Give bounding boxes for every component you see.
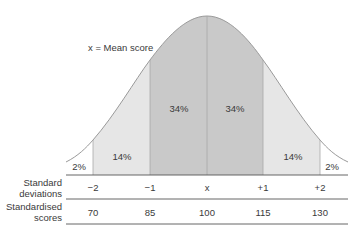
score-cell: 100 xyxy=(199,207,215,218)
percent-right-center: 34% xyxy=(225,103,244,114)
score-cell: 85 xyxy=(145,207,156,218)
score-cell: 115 xyxy=(255,207,270,218)
row-label-line: scores xyxy=(0,212,62,223)
percent-right-inner: 14% xyxy=(283,151,302,162)
row-label-standard-deviations: Standard deviations xyxy=(0,177,62,199)
row-label-line: Standardised xyxy=(0,201,62,212)
row-label-line: Standard xyxy=(0,177,62,188)
row-label-line: deviations xyxy=(0,188,62,199)
sd-cell: −1 xyxy=(145,182,156,193)
score-cell: 70 xyxy=(88,207,99,218)
percent-right-outer: 2% xyxy=(325,161,339,172)
score-cell: 130 xyxy=(312,207,328,218)
row-label-standardised-scores: Standardised scores xyxy=(0,201,62,223)
sd-cell: −2 xyxy=(88,182,99,193)
sd-cell: +1 xyxy=(258,182,269,193)
mean-legend-note: x = Mean score xyxy=(88,42,153,53)
percent-left-center: 34% xyxy=(169,103,188,114)
sd-cell: x xyxy=(205,182,210,193)
percent-left-outer: 2% xyxy=(72,161,86,172)
percent-left-inner: 14% xyxy=(112,151,131,162)
sd-cell: +2 xyxy=(315,182,326,193)
